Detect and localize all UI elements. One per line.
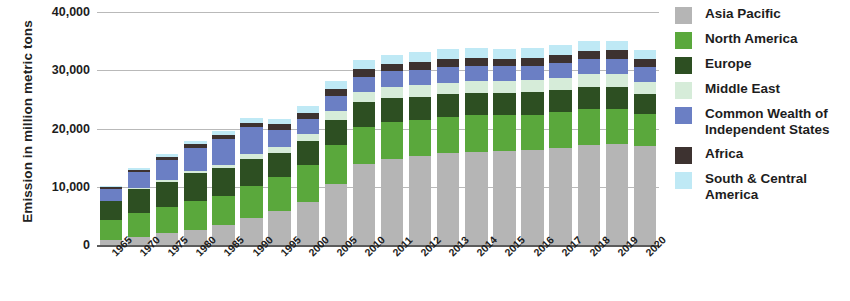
bar-segment	[268, 130, 290, 147]
bar-segment	[409, 156, 431, 245]
bar-segment	[240, 159, 262, 186]
bar-segment	[578, 74, 600, 87]
bar-segment	[465, 93, 487, 115]
bar-2016[interactable]	[521, 48, 543, 245]
bar-segment	[493, 115, 515, 151]
chart-legend: Asia PacificNorth AmericaEuropeMiddle Ea…	[675, 6, 850, 211]
bar-1990[interactable]	[240, 118, 262, 245]
bar-1970[interactable]	[128, 168, 150, 245]
bar-segment	[634, 67, 656, 82]
bar-1980[interactable]	[184, 141, 206, 245]
bar-segment	[521, 58, 543, 66]
bar-1995[interactable]	[268, 119, 290, 245]
bar-segment	[578, 87, 600, 109]
bar-segment	[184, 148, 206, 171]
bar-segment	[493, 93, 515, 115]
bar-segment	[578, 145, 600, 245]
bar-segment	[465, 48, 487, 58]
bar-2000[interactable]	[297, 106, 319, 245]
legend-item[interactable]: Asia Pacific	[675, 6, 850, 24]
bar-segment	[325, 145, 347, 185]
bar-1975[interactable]	[156, 154, 178, 245]
bar-segment	[353, 77, 375, 92]
bar-segment	[381, 55, 403, 64]
bar-segment	[156, 160, 178, 180]
legend-label: Africa	[705, 146, 743, 162]
legend-item[interactable]: Common Wealth of Independent States	[675, 106, 850, 139]
bar-2020[interactable]	[634, 50, 656, 245]
legend-item[interactable]: Europe	[675, 56, 850, 74]
bar-1965[interactable]	[100, 186, 122, 245]
bar-segment	[493, 66, 515, 81]
bar-segment	[465, 81, 487, 93]
chart-container: Emission in million metric tons 010,0002…	[0, 0, 850, 301]
bar-segment	[549, 112, 571, 148]
y-axis-tick-labels: 010,00020,00030,00040,000	[0, 0, 90, 301]
bar-2013[interactable]	[437, 49, 459, 245]
bar-segment	[128, 189, 150, 213]
legend-item[interactable]: North America	[675, 31, 850, 49]
bar-segment	[437, 153, 459, 245]
bar-segment	[353, 102, 375, 126]
bar-segment	[409, 97, 431, 120]
bar-group	[97, 8, 659, 245]
bar-segment	[549, 148, 571, 245]
bar-segment	[325, 96, 347, 111]
legend-label: Europe	[705, 56, 752, 72]
bar-segment	[437, 83, 459, 95]
bar-2018[interactable]	[578, 41, 600, 245]
bar-segment	[606, 144, 628, 245]
bar-segment	[578, 51, 600, 59]
legend-item[interactable]: Africa	[675, 146, 850, 164]
y-tick-label: 0	[0, 238, 90, 252]
bar-segment	[578, 41, 600, 51]
bar-segment	[493, 59, 515, 67]
bar-segment	[521, 92, 543, 114]
bar-segment	[606, 74, 628, 87]
legend-swatch-icon	[675, 82, 692, 99]
bar-segment	[521, 66, 543, 81]
legend-item[interactable]: South & Central America	[675, 171, 850, 204]
bar-segment	[184, 201, 206, 230]
bar-2019[interactable]	[606, 41, 628, 245]
bar-2011[interactable]	[381, 55, 403, 245]
bar-segment	[128, 172, 150, 188]
bar-segment	[100, 201, 122, 220]
legend-swatch-icon	[675, 107, 692, 124]
bar-segment	[353, 127, 375, 164]
bar-segment	[325, 89, 347, 96]
bar-1985[interactable]	[212, 131, 234, 245]
bar-2014[interactable]	[465, 48, 487, 245]
bar-segment	[297, 119, 319, 134]
bar-segment	[409, 120, 431, 156]
bar-segment	[493, 49, 515, 59]
bar-segment	[578, 109, 600, 145]
bar-segment	[381, 159, 403, 245]
bar-2005[interactable]	[325, 81, 347, 245]
bar-segment	[212, 168, 234, 196]
bar-segment	[325, 111, 347, 120]
y-tick-label: 40,000	[0, 5, 90, 19]
bar-segment	[297, 106, 319, 113]
bar-segment	[549, 78, 571, 90]
bar-segment	[493, 81, 515, 93]
bar-segment	[493, 151, 515, 245]
bar-segment	[240, 186, 262, 218]
bar-2012[interactable]	[409, 52, 431, 245]
legend-swatch-icon	[675, 7, 692, 24]
bar-segment	[465, 66, 487, 81]
legend-label: Asia Pacific	[705, 6, 781, 22]
bar-segment	[409, 62, 431, 70]
bar-segment	[437, 117, 459, 153]
bar-segment	[437, 49, 459, 59]
bar-2010[interactable]	[353, 60, 375, 245]
bar-2017[interactable]	[549, 45, 571, 245]
legend-label: Middle East	[705, 81, 780, 97]
bar-segment	[353, 164, 375, 245]
bar-2015[interactable]	[493, 49, 515, 245]
legend-label: North America	[705, 31, 798, 47]
legend-swatch-icon	[675, 32, 692, 49]
bar-segment	[465, 58, 487, 66]
bar-segment	[381, 64, 403, 72]
legend-item[interactable]: Middle East	[675, 81, 850, 99]
